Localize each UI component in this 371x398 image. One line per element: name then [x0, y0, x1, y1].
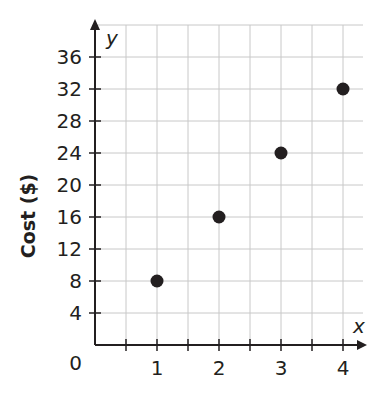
y-tick-label: 16	[57, 205, 82, 229]
data-point	[213, 211, 226, 224]
y-tick-label: 4	[69, 301, 82, 325]
x-axis-label: x	[352, 314, 365, 338]
y-tick-label: 12	[57, 237, 82, 261]
data-point	[275, 147, 288, 160]
y-tick-label: 8	[69, 269, 82, 293]
scatter-chart: 123448121620242832360yx	[0, 0, 371, 398]
origin-label: 0	[69, 351, 82, 375]
y-tick-label: 36	[57, 45, 82, 69]
y-tick-label: 28	[57, 109, 82, 133]
x-tick-label: 3	[275, 356, 288, 380]
y-tick-label: 24	[57, 141, 82, 165]
data-point	[151, 275, 164, 288]
x-axis-arrow-icon	[357, 340, 367, 350]
y-axis-title: Cost ($)	[17, 166, 39, 266]
x-tick-label: 2	[213, 356, 226, 380]
data-point	[337, 83, 350, 96]
y-tick-label: 20	[57, 173, 82, 197]
y-axis-variable: y	[105, 26, 119, 50]
y-tick-label: 32	[57, 77, 82, 101]
x-tick-label: 4	[337, 356, 350, 380]
x-tick-label: 1	[151, 356, 164, 380]
